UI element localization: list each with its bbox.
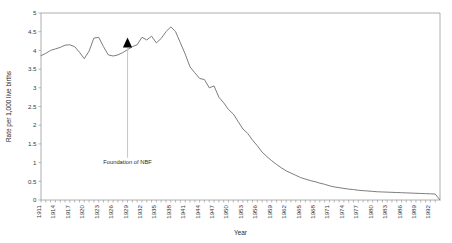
x-tick-label: 1986 (396, 204, 403, 218)
x-tick-label: 1950 (222, 204, 229, 218)
x-tick-label: 1953 (237, 204, 244, 218)
x-tick-label: 1938 (165, 204, 172, 218)
line-chart: 00.511.522.533.544.55 191119141917192019… (0, 0, 452, 243)
x-tick-label: 1977 (352, 204, 359, 218)
x-tick-label: 1932 (136, 204, 143, 218)
x-tick-label: 1983 (381, 204, 388, 218)
annotation-label: Foundation of NBF (103, 159, 152, 165)
y-tick-label: 4 (33, 47, 37, 54)
x-tick-label: 1926 (107, 204, 114, 218)
x-tick-label: 1962 (280, 204, 287, 218)
x-axis-title: Year (234, 229, 248, 236)
x-tick-label: 1917 (64, 204, 71, 218)
y-tick-label: 3.5 (28, 65, 37, 72)
data-series-layer (41, 27, 440, 200)
chart-container: 00.511.522.533.544.55 191119141917192019… (0, 0, 452, 243)
y-tick-label: 0 (33, 196, 37, 203)
y-tick-label: 3 (33, 84, 37, 91)
x-tick-label: 1974 (338, 204, 345, 218)
x-tick-label: 1965 (295, 204, 302, 218)
y-tick-label: 1.5 (28, 140, 37, 147)
x-tick-label: 1980 (367, 204, 374, 218)
x-tick-label: 1914 (49, 204, 56, 218)
y-tick-label: 2 (33, 121, 37, 128)
annotation-layer: Foundation of NBF (103, 37, 152, 164)
x-tick-label: 1992 (424, 204, 431, 218)
y-tick-label: 1 (33, 159, 37, 166)
y-tick-label: 4.5 (28, 28, 37, 35)
x-tick-label: 1935 (150, 204, 157, 218)
x-tick-label: 1971 (323, 204, 330, 218)
x-axis-ticks: 1911191419171920192319261929193219351938… (35, 200, 435, 219)
series-line (41, 27, 440, 200)
annotation-arrow-icon (123, 37, 132, 47)
x-tick-label: 1920 (78, 204, 85, 218)
x-tick-label: 1941 (179, 204, 186, 218)
x-tick-label: 1929 (122, 204, 129, 218)
x-tick-label: 1956 (251, 204, 258, 218)
y-axis-title: Rate per 1,000 live births (5, 71, 13, 142)
x-tick-label: 1947 (208, 204, 215, 218)
y-tick-label: 5 (33, 9, 37, 16)
x-tick-label: 1944 (194, 204, 201, 218)
x-tick-label: 1911 (35, 204, 42, 218)
y-axis-ticks: 00.511.522.533.544.55 (28, 9, 41, 203)
y-tick-label: 2.5 (28, 103, 37, 110)
x-tick-label: 1923 (93, 204, 100, 218)
x-tick-label: 1959 (266, 204, 273, 218)
x-tick-label: 1968 (309, 204, 316, 218)
x-tick-label: 1989 (410, 204, 417, 218)
y-tick-label: 0.5 (28, 178, 37, 185)
